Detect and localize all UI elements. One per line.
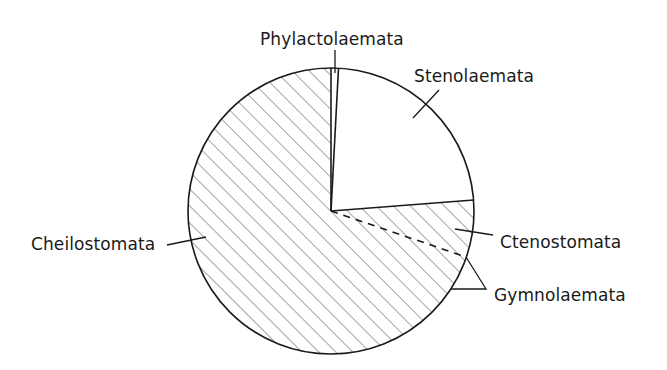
pie-chart: Phylactolaemata Stenolaemata Ctenostomat… xyxy=(0,0,667,370)
label-cheilostomata: Cheilostomata xyxy=(31,234,155,254)
label-phylactolaemata: Phylactolaemata xyxy=(260,29,404,49)
label-stenolaemata: Stenolaemata xyxy=(414,66,534,86)
label-ctenostomata: Ctenostomata xyxy=(500,232,621,252)
label-gymnolaemata: Gymnolaemata xyxy=(494,285,626,305)
slice-stenolaemata xyxy=(331,68,474,211)
